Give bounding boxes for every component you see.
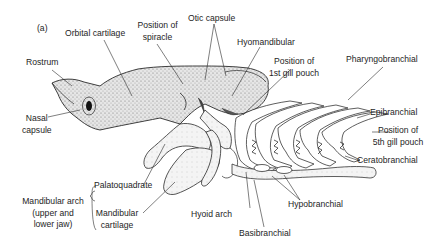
label-spiracle-line2: spiracle <box>135 32 180 44</box>
label-first-gill-line2: 1st gill pouch <box>264 68 324 80</box>
label-orbital-cartilage: Orbital cartilage <box>65 28 125 40</box>
label-rostrum: Rostrum <box>26 57 58 69</box>
label-hyomandibular: Hyomandibular <box>237 37 295 49</box>
diagram-figure: (a) Rostrum Nasal capsule Orbital cartil… <box>0 0 438 250</box>
label-mandibular-arch-line2: (upper and <box>18 208 88 220</box>
label-fifth-gill-line1: Position of <box>365 125 431 137</box>
label-mandibular-cartilage-line2: cartilage <box>92 220 142 232</box>
label-spiracle-line1: Position of <box>135 20 180 32</box>
label-palatoquadrate: Palatoquadrate <box>94 180 152 192</box>
label-nasal-capsule-line1: Nasal <box>22 113 52 125</box>
panel-label: (a) <box>37 23 48 35</box>
label-first-gill-line1: Position of <box>264 56 324 68</box>
label-position-fifth-gill-pouch: Position of 5th gill pouch <box>365 125 431 148</box>
label-nasal-capsule-line2: capsule <box>22 125 52 137</box>
label-position-of-spiracle: Position of spiracle <box>135 20 180 43</box>
label-hypobranchial: Hypobranchial <box>288 199 343 211</box>
label-mandibular-cartilage: Mandibular cartilage <box>92 208 142 231</box>
label-position-first-gill-pouch: Position of 1st gill pouch <box>264 56 324 79</box>
label-mandibular-cartilage-line1: Mandibular <box>92 208 142 220</box>
label-hyoid-arch: Hyoid arch <box>191 209 232 221</box>
label-basibranchial: Basibranchial <box>239 228 291 240</box>
label-mandibular-arch-line1: Mandibular arch <box>18 196 88 208</box>
label-nasal-capsule: Nasal capsule <box>22 113 52 136</box>
label-pharyngobranchial: Pharyngobranchial <box>346 54 418 66</box>
label-epibranchial: Epibranchial <box>370 107 417 119</box>
label-fifth-gill-line2: 5th gill pouch <box>365 137 431 149</box>
label-ceratobranchial: Ceratobranchial <box>357 155 418 167</box>
label-mandibular-arch: Mandibular arch (upper and lower jaw) <box>18 196 88 231</box>
label-otic-capsule: Otic capsule <box>188 13 235 25</box>
label-mandibular-arch-line3: lower jaw) <box>18 219 88 231</box>
